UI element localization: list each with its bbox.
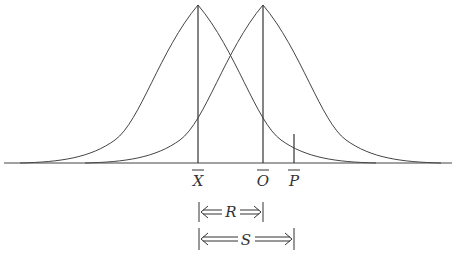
label-x-bar: X — [192, 170, 205, 190]
bracket-s-label: S — [241, 231, 251, 249]
label-o-bar: O — [257, 170, 269, 190]
label-p-bar: P — [288, 170, 300, 190]
normal-curves-diagram: X O P R S — [0, 0, 457, 259]
bracket-r-label: R — [224, 203, 236, 221]
svg-text:P: P — [288, 172, 300, 190]
svg-text:X: X — [192, 172, 205, 190]
svg-text:O: O — [257, 172, 269, 190]
